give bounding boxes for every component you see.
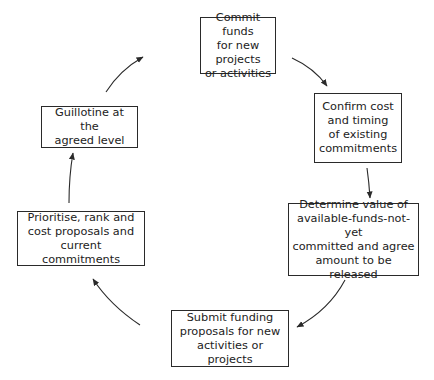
node-determine-value: Determine value of available-funds-not-y… <box>288 203 419 276</box>
node-prioritise-proposals: Prioritise, rank and cost proposals and … <box>17 211 145 266</box>
arrow-prioritise-to-guillotine <box>69 153 73 203</box>
node-label: Confirm cost and timing of existing comm… <box>319 100 397 156</box>
node-commit-funds: Commit funds for new projects or activit… <box>200 17 276 74</box>
node-label: Commit funds for new projects or activit… <box>204 11 272 81</box>
arrow-guillotine-to-commit <box>106 57 143 92</box>
node-label: Determine value of available-funds-not-y… <box>292 198 415 282</box>
node-guillotine: Guillotine at the agreed level <box>41 106 138 148</box>
node-label: Prioritise, rank and cost proposals and … <box>21 211 141 267</box>
arrow-commit-to-confirm <box>292 58 327 86</box>
arrow-determine-to-submit <box>297 280 345 327</box>
node-label: Submit funding proposals for new activit… <box>175 311 285 367</box>
node-label: Guillotine at the agreed level <box>45 106 134 148</box>
arrow-confirm-to-determine <box>367 168 370 198</box>
funding-cycle-diagram: Commit funds for new projects or activit… <box>0 0 434 380</box>
node-confirm-cost: Confirm cost and timing of existing comm… <box>314 93 402 163</box>
arrow-submit-to-prioritise <box>93 279 140 325</box>
node-submit-proposals: Submit funding proposals for new activit… <box>171 310 289 367</box>
